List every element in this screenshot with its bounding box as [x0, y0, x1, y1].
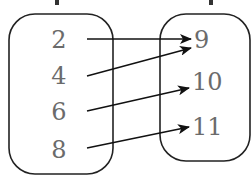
arrow-8-to-11 — [87, 127, 189, 148]
range-value: 11 — [192, 113, 223, 141]
range-value: 9 — [194, 26, 209, 54]
arrow-6-to-10 — [87, 88, 189, 111]
range-value: 10 — [192, 68, 223, 96]
range-heading-stub — [209, 0, 213, 5]
mapping-diagram: 2 4 6 8 9 10 11 — [0, 0, 252, 176]
arrow-4-to-9 — [87, 48, 191, 76]
domain-value: 8 — [51, 136, 66, 164]
domain-heading-stub — [55, 0, 59, 5]
domain-value: 4 — [51, 62, 66, 90]
domain-value: 2 — [51, 26, 66, 54]
domain-value: 6 — [51, 98, 66, 126]
